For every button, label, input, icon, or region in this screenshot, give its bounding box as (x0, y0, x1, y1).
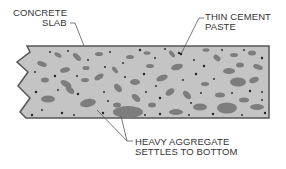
thin-cement-paste-label-line2: PASTE (205, 22, 271, 32)
heavy-aggregate-label-line2: SETTLES TO BOTTOM (135, 147, 238, 157)
aggregate-leader-right (121, 116, 127, 141)
heavy-aggregate-label: HEAVY AGGREGATE SETTLES TO BOTTOM (135, 137, 238, 157)
concrete-slab-label: CONCRETE SLAB (13, 8, 67, 28)
thin-cement-paste-label: THIN CEMENT PASTE (205, 12, 271, 32)
concrete-slab-label-line2: SLAB (13, 18, 67, 28)
concrete-slab-leader (70, 23, 84, 46)
cement-paste-pointer-dot (180, 53, 182, 55)
